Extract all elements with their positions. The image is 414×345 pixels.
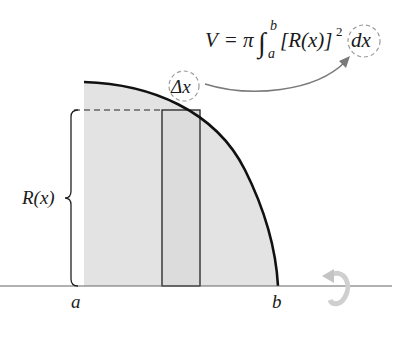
formula-exponent: 2 [336, 24, 343, 39]
formula-integral: ∫ [256, 27, 268, 60]
formula-lower-limit: a [268, 46, 275, 61]
formula-V: V [205, 28, 220, 52]
representative-rectangle [162, 110, 200, 286]
delta-x-label: Δx [170, 76, 191, 97]
radius-brace [65, 110, 78, 286]
formula-integrand: [R(x)] [280, 28, 332, 52]
connector-arrow [205, 62, 345, 91]
upper-bound-label-b: b [272, 291, 282, 312]
volume-of-revolution-diagram: R(x) a b Δx V = π ∫ b a [R(x)] 2 dx [0, 0, 414, 345]
volume-formula: V = π ∫ b a [R(x)] 2 dx [205, 18, 380, 61]
radius-label: R(x) [21, 187, 55, 209]
formula-upper-limit: b [270, 18, 277, 33]
formula-dx: dx [351, 28, 372, 52]
lower-bound-label-a: a [71, 291, 81, 312]
formula-pi: π [243, 28, 254, 52]
formula-equals: = [225, 28, 237, 52]
